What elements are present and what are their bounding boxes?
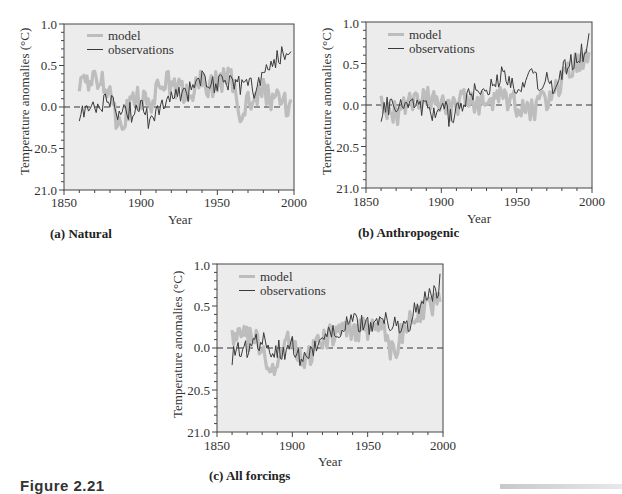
legend-label: observations [260, 284, 326, 297]
x-tick-label: 1900 [279, 439, 305, 452]
y-tick-label: 0.5 [170, 300, 210, 313]
y-tick-label: 1.0 [170, 259, 210, 272]
legend-model: model [239, 270, 293, 283]
panel-caption: (c) All forcings [209, 469, 290, 482]
y-tick-label: 20.5 [170, 384, 210, 397]
legend-swatch-model [239, 275, 255, 278]
x-tick-label: 1950 [355, 439, 381, 452]
legend-observations: observations [239, 284, 326, 297]
x-axis-label: Year [318, 455, 342, 468]
legend-label: model [260, 270, 293, 283]
y-tick-label: 0.0 [170, 341, 210, 354]
page-edge-bar [500, 484, 622, 489]
legend-swatch-observations [239, 290, 255, 291]
x-tick-label: 1850 [204, 439, 230, 452]
x-tick-label: 2000 [430, 439, 456, 452]
figure-caption: Figure 2.21 [20, 478, 105, 493]
